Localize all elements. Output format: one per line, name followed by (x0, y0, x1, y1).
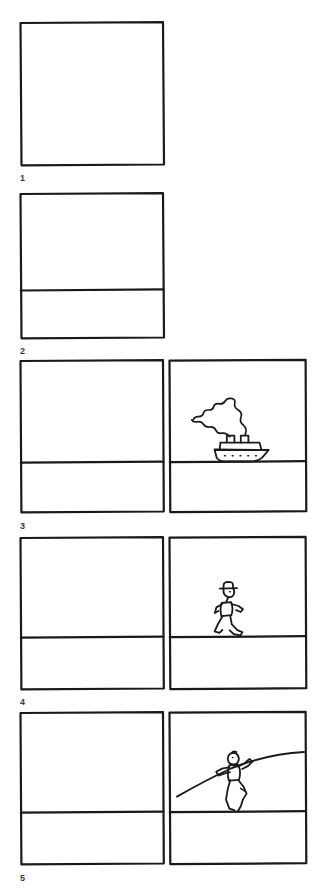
panel-1[interactable] (20, 22, 164, 165)
panel-3-right-box[interactable] (169, 360, 306, 512)
panel-5-right-box[interactable] (169, 712, 306, 864)
panel-3-left-box[interactable] (20, 360, 164, 512)
page-header-text (6, 0, 156, 6)
panel-3-caption: 3 (20, 521, 25, 531)
panel-4-caption: 4 (20, 697, 25, 707)
panel-5-left-box[interactable] (20, 712, 164, 864)
storyboard-page: 1 2 3 4 5 (0, 0, 330, 895)
panel-2-caption: 2 (20, 346, 25, 356)
panel-2[interactable] (20, 193, 164, 338)
panel-5-caption: 5 (20, 873, 25, 883)
panel-4-right-box[interactable] (169, 537, 306, 689)
panel-1-caption: 1 (20, 173, 25, 183)
panel-4-left-box[interactable] (20, 537, 164, 689)
